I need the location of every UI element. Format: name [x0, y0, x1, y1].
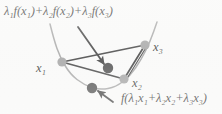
upper-expression-label: λ₁f(x₁)+λ₂f(x₂)+λ₃f(x₃)	[4, 5, 113, 18]
chord-x1-x2	[62, 62, 124, 79]
chord-x2-x3-secondary	[126, 46, 147, 80]
point-label-x3: x₃	[153, 41, 163, 54]
point-label-x2: x₂	[132, 77, 142, 90]
point-convex-combination-of-values	[103, 63, 113, 73]
point-x3	[140, 40, 149, 49]
point-x1	[57, 57, 66, 66]
lower-expression-label: f(λ₁x₁+λ₂x₂+λ₃x₃)	[121, 92, 207, 105]
convex-function-figure: λ₁f(x₁)+λ₂f(x₂)+λ₃f(x₃) f(λ₁x₁+λ₂x₂+λ₃x₃…	[0, 0, 222, 114]
point-label-x1: x₁	[36, 62, 46, 75]
point-value-at-convex-combination	[87, 83, 97, 93]
point-x2	[119, 74, 128, 83]
chord-x1-x3	[62, 45, 145, 62]
lower-annotation-arrow	[98, 91, 113, 102]
chord-x2-x3	[124, 45, 145, 79]
chord-triangle	[62, 45, 147, 80]
